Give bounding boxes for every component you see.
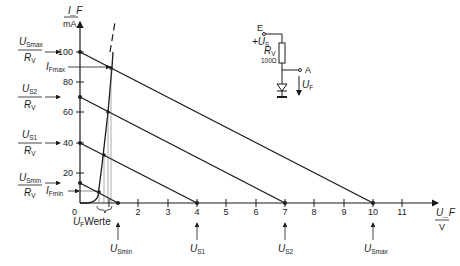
load-lines — [80, 52, 373, 203]
svg-text:V: V — [439, 222, 445, 232]
bottom-label-us1: US1 — [190, 223, 206, 255]
y-tick-100: 100 — [58, 47, 73, 57]
svg-text:mA: mA — [63, 19, 77, 29]
y-tick-60: 60 — [63, 107, 73, 117]
circuit-resistor-label: RV — [264, 45, 276, 57]
svg-text:US2: US2 — [278, 243, 294, 255]
load-line-usmax — [80, 52, 373, 203]
y-tick-80: 80 — [63, 77, 73, 87]
svg-text:I_F: I_F — [68, 5, 83, 16]
axes — [80, 22, 438, 203]
uf-values-label: UFWerte — [73, 216, 111, 228]
svg-text:RV: RV — [24, 187, 36, 199]
diode-icon — [277, 84, 287, 91]
svg-text:USmin: USmin — [19, 172, 41, 184]
left-label-us2: US2 RV — [18, 83, 60, 111]
svg-text:USmin: USmin — [110, 243, 132, 255]
x-axis-label: U_F V — [435, 207, 456, 232]
ifmin-mark: IFmin — [46, 185, 99, 197]
svg-text:USmax: USmax — [364, 243, 389, 255]
y-tick-20: 20 — [63, 168, 73, 178]
x-tick-2: 2 — [135, 207, 140, 217]
svg-text:IFmin: IFmin — [46, 185, 64, 197]
svg-text:U_F: U_F — [436, 207, 456, 218]
x-tick-7: 7 — [282, 207, 287, 217]
x-tick-10: 10 — [368, 207, 378, 217]
bottom-label-usmax: USmax — [364, 223, 389, 255]
x-tick-3: 3 — [165, 207, 170, 217]
left-label-usmax: USmax RV — [18, 36, 60, 64]
bottom-label-us2: US2 — [278, 223, 294, 255]
x-tick-5: 5 — [223, 207, 228, 217]
circuit-input-label: E — [257, 23, 263, 33]
y-tick-40: 40 — [63, 138, 73, 148]
output-terminal — [299, 69, 302, 72]
resistor-icon — [279, 43, 285, 63]
left-label-us1: US1 RV — [18, 129, 60, 157]
circuit-voltage-label: UF — [302, 79, 313, 91]
svg-text:RV: RV — [24, 145, 36, 157]
svg-text:RV: RV — [24, 52, 36, 64]
svg-text:RV: RV — [24, 99, 36, 111]
uf-values-brace — [97, 206, 112, 213]
circuit-output-label: A — [305, 65, 311, 75]
x-tick-11: 11 — [397, 207, 406, 217]
characteristic-extension-dashed — [110, 22, 115, 52]
svg-text:USmax: USmax — [19, 36, 44, 48]
diode-load-line-diagram: 100 80 60 40 20 0 2 3 4 5 6 7 8 9 10 11 … — [0, 0, 460, 266]
svg-text:US2: US2 — [22, 83, 38, 95]
load-line-us1 — [80, 143, 197, 203]
x-tick-6: 6 — [253, 207, 258, 217]
x-tick-4: 4 — [194, 207, 199, 217]
svg-text:IFmax: IFmax — [46, 61, 66, 73]
x-tick-9: 9 — [341, 207, 346, 217]
circuit-resistor-value: 100Ω — [261, 57, 277, 64]
x-tick-8: 8 — [311, 207, 316, 217]
svg-text:US1: US1 — [190, 243, 206, 255]
svg-text:US1: US1 — [22, 129, 38, 141]
bottom-label-usmin: USmin — [110, 223, 132, 255]
